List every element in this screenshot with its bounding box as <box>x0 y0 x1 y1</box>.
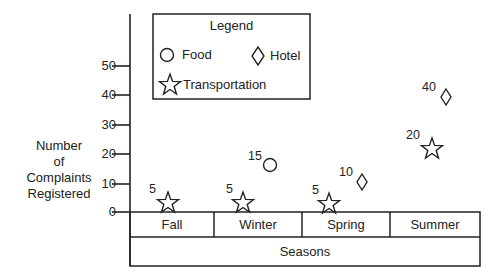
y-tick-label: 0 <box>88 204 116 219</box>
legend-star-icon <box>160 74 181 94</box>
y-tick-label: 40 <box>88 87 116 102</box>
diamond-marker-spring <box>357 174 367 190</box>
y-tick-label: 30 <box>88 117 116 132</box>
star-marker-spring <box>319 193 340 213</box>
x-category-spring: Spring <box>302 217 390 232</box>
x-category-winter: Winter <box>214 217 302 232</box>
data-label: 15 <box>248 149 262 163</box>
data-label: 5 <box>149 182 156 196</box>
x-category-fall: Fall <box>130 217 214 232</box>
legend-diamond-icon <box>252 47 264 65</box>
legend-label-transportation: Transportation <box>183 77 266 92</box>
circle-marker-winter <box>264 159 277 172</box>
legend-circle-icon <box>161 49 174 62</box>
y-tick-label: 10 <box>88 176 116 191</box>
y-tick-label: 20 <box>88 146 116 161</box>
legend-label-hotel: Hotel <box>270 48 300 63</box>
data-label: 5 <box>226 182 233 196</box>
data-label: 10 <box>339 165 353 179</box>
data-label: 40 <box>422 80 436 94</box>
diamond-marker-summer <box>441 89 451 105</box>
star-marker-winter <box>233 192 254 212</box>
data-label: 20 <box>406 128 420 142</box>
legend-label-food: Food <box>182 47 212 62</box>
x-category-summer: Summer <box>390 217 480 232</box>
star-marker-summer <box>422 138 443 158</box>
data-label: 5 <box>312 183 319 197</box>
y-tick-label: 50 <box>88 58 116 73</box>
star-marker-fall <box>158 192 179 212</box>
legend-title: Legend <box>153 18 310 33</box>
x-axis-label: Seasons <box>130 244 480 259</box>
